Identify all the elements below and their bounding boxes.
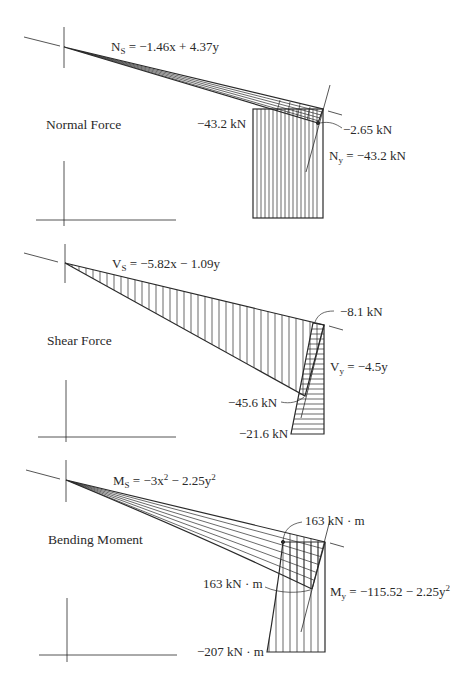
- sloped-member-extension: [26, 470, 60, 479]
- sloped-member-extension: [24, 253, 58, 262]
- normal-left-value: −43.2 kN: [197, 117, 246, 130]
- moment-mid-value: 163 kN · m: [203, 577, 263, 590]
- moment-sloped-equation: MS = −3x2 − 2.25y2: [113, 474, 216, 487]
- normal-force-title: Normal Force: [46, 118, 121, 132]
- shear-top-value: −8.1 kN: [340, 305, 383, 318]
- vertical-member-axis: [306, 85, 330, 172]
- moment-vertical-equation: My = −115.52 − 2.25y2: [330, 585, 450, 598]
- eq-symbol: N: [329, 148, 338, 163]
- eq-sup-a: 2: [446, 583, 451, 593]
- member-extension-right: [330, 543, 344, 547]
- eq-symbol: V: [330, 359, 339, 374]
- shear-vertical-equation: Vy = −4.5y: [330, 360, 388, 373]
- leader-mid-value: [265, 587, 310, 592]
- eq-sup-b: 2: [211, 472, 216, 482]
- sloped-member-extension: [24, 37, 60, 46]
- shear-force-title: Shear Force: [47, 334, 112, 348]
- leader-mid-value: [281, 397, 304, 403]
- normal-vertical-outline: [253, 109, 323, 218]
- eq-rhs: = −1.46x + 4.37y: [125, 39, 219, 54]
- bending-moment-title: Bending Moment: [48, 533, 143, 547]
- eq-symbol: V: [112, 256, 121, 271]
- normal-sloped-outline: [64, 47, 323, 123]
- eq-rhs-a: = −115.52 − 2.25y: [346, 584, 446, 599]
- normal-joint-value: −2.65 kN: [343, 123, 392, 136]
- moment-top-value: 163 kN · m: [305, 514, 365, 527]
- member-extension-right: [329, 326, 343, 330]
- member-extension-right: [328, 111, 342, 115]
- eq-symbol: M: [113, 473, 125, 488]
- shear-sloped-outline: [65, 263, 324, 396]
- moment-bottom-value: −207 kN · m: [197, 645, 264, 658]
- eq-rhs-b: − 2.25y: [168, 473, 211, 488]
- eq-rhs: = −5.82x − 1.09y: [126, 256, 220, 271]
- shear-mid-value: −45.6 kN: [228, 396, 277, 409]
- normal-sloped-equation: NS = −1.46x + 4.37y: [111, 40, 219, 53]
- normal-vertical-equation: Ny = −43.2 kN: [329, 149, 406, 162]
- joint-dot: [316, 121, 319, 124]
- eq-symbol: N: [111, 39, 120, 54]
- eq-rhs-a: = −3x: [130, 473, 164, 488]
- eq-rhs: = −4.5y: [344, 359, 388, 374]
- shear-sloped-equation: VS = −5.82x − 1.09y: [112, 257, 220, 270]
- eq-symbol: M: [330, 584, 342, 599]
- bending-moment-diagram: [26, 460, 344, 662]
- eq-rhs: = −43.2 kN: [343, 148, 406, 163]
- leader-top-value: [315, 311, 334, 322]
- leader-top-value: [283, 522, 302, 541]
- shear-bottom-value: −21.6 kN: [239, 427, 288, 440]
